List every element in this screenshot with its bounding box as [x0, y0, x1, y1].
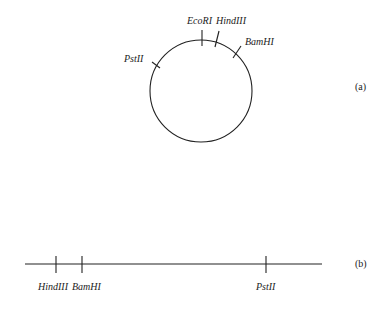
panel-b-linear-map: HindIII BamHI PstII (b) — [25, 256, 367, 292]
ecori-label: EcoRI — [186, 15, 213, 26]
plasmid-circle — [150, 40, 252, 142]
panel-b-tag: (b) — [355, 258, 367, 270]
panel-a-tag: (a) — [355, 81, 366, 93]
hindiii-site-tick — [215, 31, 219, 47]
bamhi-label: BamHI — [245, 36, 275, 47]
hindiii-label: HindIII — [215, 15, 247, 26]
restriction-map-figure: EcoRI HindIII BamHI PstII (a) HindIII Ba… — [0, 0, 389, 310]
hindiii-label: HindIII — [37, 281, 69, 292]
pstii-label: PstII — [123, 53, 144, 64]
panel-a-circular-map: EcoRI HindIII BamHI PstII (a) — [123, 15, 366, 142]
pstii-label: PstII — [255, 281, 276, 292]
bamhi-label: BamHI — [72, 281, 102, 292]
